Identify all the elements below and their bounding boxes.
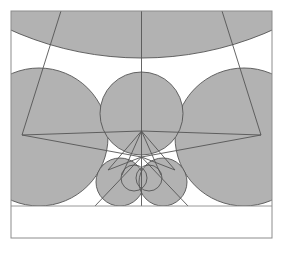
figure-content-group [0, 0, 283, 238]
baseline-white-band [11, 206, 272, 238]
geometry-svg [0, 0, 283, 253]
geometric-figure-canvas [0, 0, 283, 253]
